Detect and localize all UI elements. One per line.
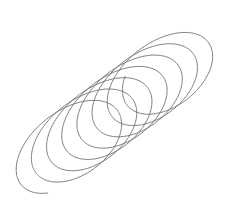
helix-svg xyxy=(0,0,239,220)
helix-figure xyxy=(0,0,239,220)
helix-coil-line xyxy=(16,32,212,193)
